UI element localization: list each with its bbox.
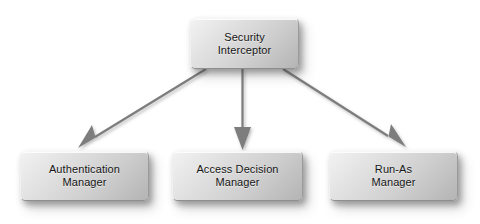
- node-label-run-as-manager: Run-As Manager: [371, 163, 415, 189]
- node-label-access-decision-manager: Access Decision Manager: [196, 163, 278, 189]
- edge-line-run-as-manager: [283, 69, 388, 136]
- diagram-canvas: Security Interceptor Authentication Mana…: [0, 0, 480, 224]
- node-security-interceptor[interactable]: Security Interceptor: [190, 18, 299, 69]
- node-authentication-manager[interactable]: Authentication Manager: [20, 151, 149, 201]
- arrowhead-icon-run-as-manager: [389, 124, 407, 147]
- node-access-decision-manager[interactable]: Access Decision Manager: [172, 151, 303, 201]
- arrowhead-icon-access-decision-manager: [234, 127, 251, 150]
- node-run-as-manager[interactable]: Run-As Manager: [329, 151, 458, 201]
- edge-to-authentication-manager: [78, 69, 206, 148]
- node-label-security-interceptor: Security Interceptor: [218, 31, 272, 57]
- edge-line-authentication-manager: [95, 69, 206, 137]
- edge-to-run-as-manager: [283, 69, 406, 147]
- arrowhead-icon-authentication-manager: [78, 125, 96, 148]
- edge-to-access-decision-manager: [234, 69, 251, 150]
- node-label-authentication-manager: Authentication Manager: [49, 163, 120, 189]
